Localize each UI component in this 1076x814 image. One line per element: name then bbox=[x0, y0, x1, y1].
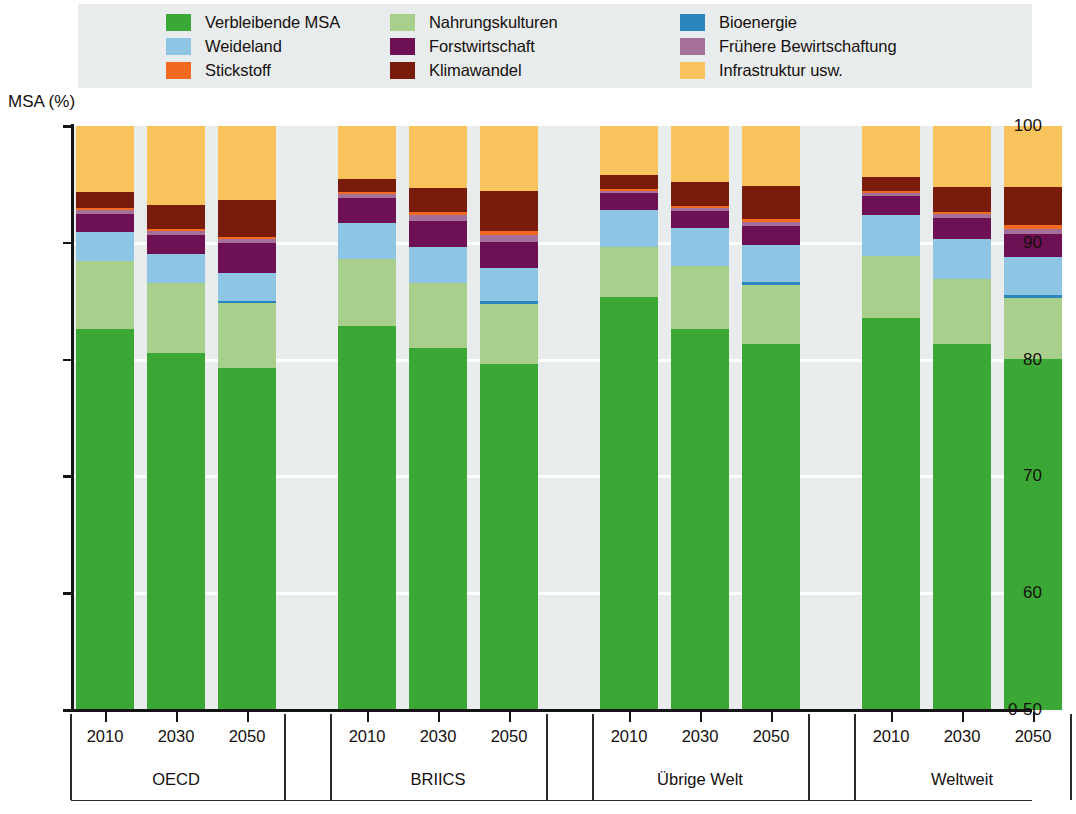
bar-segment-infrastructure bbox=[147, 126, 205, 205]
bar-übrige-welt-2030 bbox=[671, 126, 729, 710]
x-axis-year-label: 2010 bbox=[594, 727, 664, 746]
y-axis-tick-label: 80 bbox=[984, 350, 1042, 370]
bar-segment-pasture bbox=[218, 273, 276, 300]
bar-briics-2050 bbox=[480, 126, 538, 710]
x-axis-year-label: 2050 bbox=[736, 727, 806, 746]
bar-segment-forestry bbox=[147, 235, 205, 255]
x-axis-tick bbox=[367, 712, 369, 722]
bar-segment-climate_change bbox=[480, 191, 538, 231]
y-axis-tick-label: 100 bbox=[984, 116, 1042, 136]
bar-segment-infrastructure bbox=[218, 126, 276, 200]
bar-segment-forestry bbox=[742, 226, 800, 245]
bar-oecd-2030 bbox=[147, 126, 205, 710]
bar-segment-remaining_msa bbox=[338, 326, 396, 710]
bar-segment-remaining_msa bbox=[742, 344, 800, 710]
bar-segment-climate_change bbox=[76, 192, 134, 208]
bar-segment-climate_change bbox=[600, 175, 658, 189]
bar-segment-remaining_msa bbox=[1004, 359, 1062, 710]
bar-segment-remaining_msa bbox=[147, 353, 205, 710]
x-axis-year-label: 2030 bbox=[403, 727, 473, 746]
bar-übrige-welt-2050 bbox=[742, 126, 800, 710]
x-axis-group-separator bbox=[1070, 714, 1072, 800]
bar-segment-forestry bbox=[671, 211, 729, 228]
bar-segment-food_crops bbox=[600, 247, 658, 296]
x-axis-tick bbox=[771, 712, 773, 722]
bar-segment-forestry bbox=[480, 242, 538, 268]
bar-weltweit-2030 bbox=[933, 126, 991, 710]
x-axis-year-label: 2050 bbox=[212, 727, 282, 746]
bar-segment-remaining_msa bbox=[933, 344, 991, 710]
bar-segment-infrastructure bbox=[933, 126, 991, 187]
x-axis-year-label: 2010 bbox=[856, 727, 926, 746]
bar-segment-climate_change bbox=[862, 177, 920, 191]
bar-segment-remaining_msa bbox=[671, 329, 729, 710]
bar-segment-food_crops bbox=[218, 303, 276, 368]
y-axis-tick-label: 70 bbox=[984, 466, 1042, 486]
bar-segment-forestry bbox=[862, 196, 920, 215]
x-axis-tick bbox=[700, 712, 702, 722]
bar-segment-remaining_msa bbox=[862, 318, 920, 710]
x-axis-group-separator bbox=[854, 714, 856, 800]
bar-segment-food_crops bbox=[147, 283, 205, 353]
bar-segment-pasture bbox=[1004, 257, 1062, 295]
bar-segment-climate_change bbox=[742, 186, 800, 219]
bar-segment-remaining_msa bbox=[76, 329, 134, 710]
bar-segment-climate_change bbox=[409, 188, 467, 213]
x-axis-group-separator bbox=[592, 714, 594, 800]
bar-segment-food_crops bbox=[76, 261, 134, 329]
x-axis-group-separator bbox=[808, 714, 810, 800]
x-axis-group-label: Übrige Welt bbox=[580, 770, 820, 789]
x-axis-tick bbox=[629, 712, 631, 722]
bar-briics-2030 bbox=[409, 126, 467, 710]
bar-segment-forestry bbox=[600, 193, 658, 209]
x-axis-tick bbox=[891, 712, 893, 722]
x-axis-tick bbox=[962, 712, 964, 722]
x-axis-year-label: 2050 bbox=[998, 727, 1068, 746]
x-axis-group-label: OECD bbox=[56, 770, 296, 789]
x-axis-group-label: BRIICS bbox=[318, 770, 558, 789]
bar-briics-2010 bbox=[338, 126, 396, 710]
bar-segment-pasture bbox=[671, 228, 729, 266]
bar-segment-food_crops bbox=[338, 259, 396, 327]
bar-übrige-welt-2010 bbox=[600, 126, 658, 710]
bar-weltweit-2010 bbox=[862, 126, 920, 710]
x-axis-year-label: 2010 bbox=[70, 727, 140, 746]
x-axis-tick bbox=[105, 712, 107, 722]
bar-segment-food_crops bbox=[862, 256, 920, 317]
bar-weltweit-2050 bbox=[1004, 126, 1062, 710]
bar-segment-food_crops bbox=[742, 285, 800, 343]
x-axis-tick bbox=[509, 712, 511, 722]
y-axis-tick-label: 60 bbox=[984, 583, 1042, 603]
bar-segment-infrastructure bbox=[409, 126, 467, 188]
bar-segment-forestry bbox=[409, 221, 467, 247]
bar-segment-infrastructure bbox=[338, 126, 396, 179]
bar-segment-infrastructure bbox=[862, 126, 920, 177]
bar-segment-climate_change bbox=[933, 187, 991, 212]
bar-oecd-2010 bbox=[76, 126, 134, 710]
x-axis-group-separator bbox=[546, 714, 548, 800]
bar-segment-forestry bbox=[338, 198, 396, 223]
bar-segment-infrastructure bbox=[76, 126, 134, 192]
bar-segment-pasture bbox=[742, 245, 800, 283]
y-axis-tick bbox=[63, 475, 73, 478]
x-axis-tick bbox=[247, 712, 249, 722]
y-axis-title: MSA (%) bbox=[8, 92, 75, 112]
x-axis-tick bbox=[176, 712, 178, 722]
bar-segment-infrastructure bbox=[480, 126, 538, 191]
y-axis-tick bbox=[63, 592, 73, 595]
bar-oecd-2050 bbox=[218, 126, 276, 710]
bar-segment-climate_change bbox=[671, 182, 729, 206]
bar-segment-pasture bbox=[409, 247, 467, 283]
bar-segment-pasture bbox=[76, 232, 134, 262]
bar-segment-pasture bbox=[600, 210, 658, 248]
bar-segment-remaining_msa bbox=[480, 364, 538, 710]
x-axis-group-separator bbox=[284, 714, 286, 800]
bar-segment-infrastructure bbox=[671, 126, 729, 182]
x-axis-year-label: 2050 bbox=[474, 727, 544, 746]
bar-segment-pasture bbox=[933, 239, 991, 279]
bar-segment-pasture bbox=[480, 268, 538, 301]
bar-segment-remaining_msa bbox=[409, 348, 467, 710]
x-axis-year-label: 2030 bbox=[141, 727, 211, 746]
bar-segment-infrastructure bbox=[742, 126, 800, 186]
